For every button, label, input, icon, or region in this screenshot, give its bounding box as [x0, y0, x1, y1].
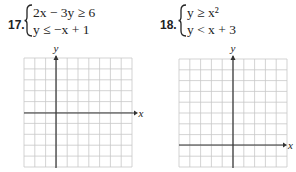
- y-axis-arrow-icon: [231, 55, 236, 60]
- x-axis-arrow-icon: [283, 143, 287, 148]
- coordinate-grid-18[interactable]: x y: [0, 0, 296, 172]
- x-axis-label: x: [287, 139, 293, 151]
- y-axis-label: y: [230, 42, 236, 54]
